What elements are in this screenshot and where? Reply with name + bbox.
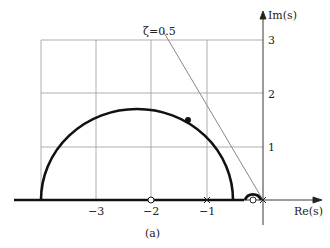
gain-point-marker xyxy=(185,117,191,123)
zeta-label: ζ=0.5 xyxy=(143,25,176,38)
y-axis-label: Im(s) xyxy=(268,9,297,22)
x-tick-label: −1 xyxy=(199,205,215,218)
zero-marker xyxy=(148,197,154,203)
root-locus xyxy=(14,109,261,200)
zero-marker xyxy=(250,197,256,203)
zeta-line xyxy=(163,31,263,200)
axes xyxy=(14,11,322,225)
y-tick-label: 3 xyxy=(268,34,275,47)
x-tick-label: −3 xyxy=(88,205,104,218)
y-tick-label: 1 xyxy=(268,141,275,154)
x-tick-label: −2 xyxy=(143,205,159,218)
y-tick-label: 2 xyxy=(268,88,275,101)
figure-caption: (a) xyxy=(145,227,160,240)
root-locus-plot: ζ=0.5 Re(s) Im(s) −3 −2 −1 1 2 3 (a) xyxy=(0,0,330,248)
x-axis-label: Re(s) xyxy=(294,205,323,218)
